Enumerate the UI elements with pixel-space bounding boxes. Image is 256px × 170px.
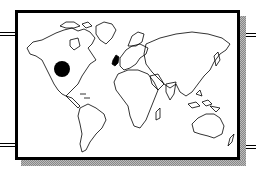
australia — [192, 114, 224, 138]
europe — [120, 44, 148, 70]
south-america — [78, 104, 106, 152]
new-guinea — [210, 106, 220, 112]
uk-ireland — [112, 55, 119, 66]
hudson-bay — [70, 38, 80, 50]
arctic-islands — [60, 22, 92, 28]
japan — [214, 52, 220, 66]
madagascar — [156, 108, 160, 120]
new-zealand — [228, 134, 234, 146]
scandinavia — [128, 32, 144, 46]
central-america — [66, 96, 80, 108]
africa — [114, 70, 158, 128]
caribbean — [80, 94, 90, 98]
location-marker — [54, 61, 70, 77]
world-map — [0, 0, 256, 170]
greenland — [96, 22, 116, 44]
